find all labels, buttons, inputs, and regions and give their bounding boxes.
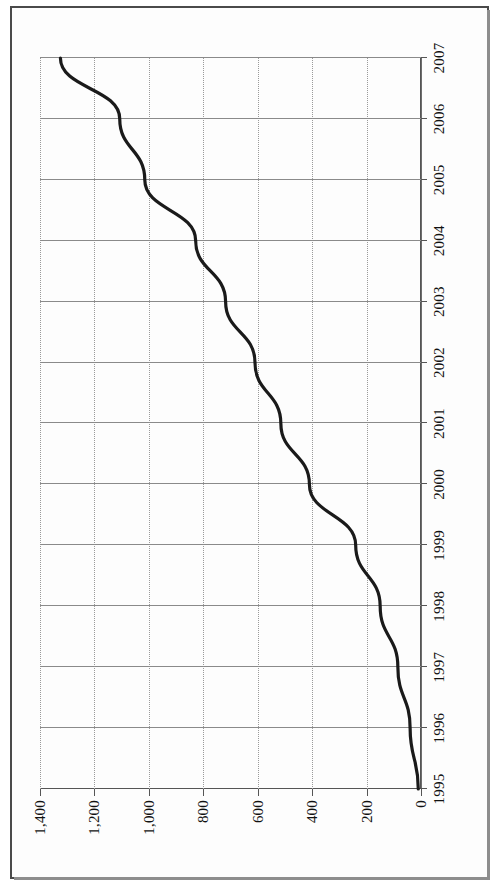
value-tick [421,789,422,796]
rotated-chart-container: 02004006008001,0001,2001,400 19951996199… [12,8,491,879]
value-tick-label: 200 [358,800,375,823]
value-tick-label: 1,400 [32,800,49,835]
category-tick [421,666,427,667]
value-tick-label: 1,000 [140,800,157,835]
category-tick [421,423,427,424]
category-tick [421,179,427,180]
category-tick-label: 1997 [431,652,448,683]
category-tick-label: 2002 [431,347,448,378]
category-tick [421,240,427,241]
value-tick-label: 600 [249,800,266,823]
category-tick-label: 2007 [431,43,448,74]
category-tick [421,483,427,484]
value-tick-label: 400 [304,800,321,823]
category-tick-label: 1995 [431,774,448,805]
value-gridline [421,58,422,789]
category-tick [421,544,427,545]
category-tick [421,57,427,58]
category-tick-label: 2003 [431,286,448,317]
series-1-path [60,58,418,789]
category-tick [421,301,427,302]
value-tick [40,789,41,796]
category-tick-label: 2000 [431,469,448,500]
plot-area: 02004006008001,0001,2001,400 19951996199… [40,58,421,789]
value-tick [203,789,204,796]
category-tick-label: 1999 [431,530,448,561]
line-series [40,58,421,789]
page-border-frame: 02004006008001,0001,2001,400 19951996199… [10,6,489,879]
value-tick [94,789,95,796]
value-tick-label: 800 [195,800,212,823]
category-tick-label: 2005 [431,164,448,195]
category-tick-label: 1996 [431,713,448,744]
category-tick [421,118,427,119]
value-tick-label: 1,200 [86,800,103,835]
value-tick [312,789,313,796]
category-tick [421,605,427,606]
category-tick-label: 2001 [431,408,448,439]
value-tick [149,789,150,796]
category-tick-label: 1998 [431,591,448,622]
category-tick [421,727,427,728]
category-tick-label: 2004 [431,225,448,256]
value-tick-label: 0 [413,800,430,808]
value-tick [367,789,368,796]
chart-plot-wrapper: 02004006008001,0001,2001,400 19951996199… [12,8,491,879]
scanned-page: 02004006008001,0001,2001,400 19951996199… [0,0,499,891]
category-tick [421,788,427,789]
category-tick [421,362,427,363]
category-tick-label: 2006 [431,104,448,135]
value-tick [258,789,259,796]
